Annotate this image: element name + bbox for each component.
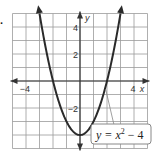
y-tick-label: −2 [68,104,78,114]
x-tick-label: 4 [130,84,135,94]
x-axis-label: x [139,84,145,94]
y-axis-up-arrow-icon [77,12,83,19]
y-tick-label: 4 [73,23,78,33]
y-tick-label: 2 [73,50,78,60]
function-label: y = x2 − 4 [95,127,144,142]
curve-arrow-icon [36,5,43,13]
curve-arrow-icon [117,5,124,13]
x-axis-left-arrow-icon [11,78,18,84]
y-axis-label: y [84,13,90,23]
y-axis-down-arrow-icon [77,144,83,151]
parabola-chart: −44x42−2yy = x2 − 4 [0,0,155,162]
x-tick-label: −4 [20,84,30,94]
